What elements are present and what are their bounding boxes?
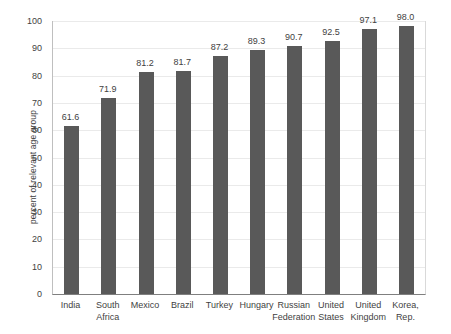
bar (176, 71, 191, 294)
y-axis-tick-label: 10 (0, 262, 42, 272)
y-axis-tick-label: 90 (0, 43, 42, 53)
bar-value-label: 81.2 (136, 58, 154, 68)
bar-chart-figure: percent of relevant age group 1009080706… (0, 0, 451, 334)
y-axis-tick-label: 30 (0, 207, 42, 217)
bar-value-label: 71.9 (99, 84, 117, 94)
bar-value-label: 61.6 (62, 112, 80, 122)
bar (399, 26, 414, 294)
bar-value-label: 81.7 (173, 57, 191, 67)
plot-area (52, 21, 426, 295)
x-axis-category-label: Korea,Rep. (374, 300, 436, 323)
y-axis-tick-label: 60 (0, 125, 42, 135)
bar-value-label: 97.1 (359, 15, 377, 25)
bar (325, 41, 340, 294)
y-axis-tick-label: 0 (0, 289, 42, 299)
bar (287, 46, 302, 294)
y-axis-tick-label: 40 (0, 180, 42, 190)
bar-value-label: 87.2 (211, 42, 229, 52)
bar (250, 50, 265, 294)
bar (101, 98, 116, 294)
y-axis-tick-label: 70 (0, 98, 42, 108)
y-axis-tick-label: 100 (0, 16, 42, 26)
y-axis-tick-label: 50 (0, 153, 42, 163)
bar (139, 72, 154, 294)
bar-value-label: 89.3 (248, 36, 266, 46)
bar-value-label: 92.5 (322, 27, 340, 37)
bar (213, 56, 228, 294)
bar (362, 29, 377, 294)
y-axis-tick-label: 20 (0, 234, 42, 244)
bar-value-label: 98.0 (397, 12, 415, 22)
y-axis-tick-label: 80 (0, 71, 42, 81)
gridline (53, 294, 425, 295)
bar (64, 126, 79, 294)
bar-value-label: 90.7 (285, 32, 303, 42)
